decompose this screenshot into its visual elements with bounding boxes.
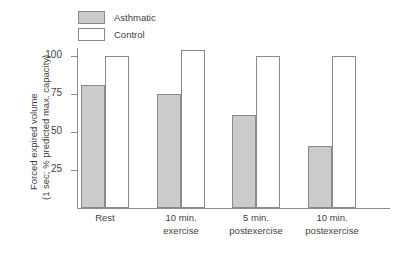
x-axis-label-3-line2: postexercise: [277, 225, 387, 238]
y-axis-title: Forced expired volume (1 sec; % predicte…: [0, 0, 46, 255]
chart-figure: Asthmatic Control Forced expired volume …: [0, 0, 409, 255]
bar-control-1: [181, 50, 205, 208]
bar-asthmatic-2: [232, 115, 256, 208]
y-axis-title-line1: Forced expired volume: [28, 93, 39, 190]
x-axis-labels: Rest10 min.exercise5 min.postexercise10 …: [77, 212, 397, 254]
x-axis-label-3-line1: 10 min.: [316, 212, 347, 223]
y-tick-label-100: 100: [45, 49, 62, 60]
chart-legend: Asthmatic Control: [78, 11, 156, 41]
bar-asthmatic-0: [81, 85, 105, 208]
bar-asthmatic-3: [308, 146, 332, 208]
x-axis-label-2-line1: 5 min.: [243, 212, 269, 223]
y-tick-label-25: 25: [51, 163, 62, 174]
bar-control-2: [256, 56, 280, 208]
legend-swatch-asthmatic: [78, 11, 105, 24]
bar-control-3: [332, 56, 356, 208]
x-axis-label-1-line1: 10 min.: [165, 212, 196, 223]
legend-label-asthmatic: Asthmatic: [114, 11, 156, 24]
bar-asthmatic-1: [157, 94, 181, 208]
bar-groups: [77, 40, 397, 208]
plot-area: 255075100: [77, 40, 397, 208]
y-axis-title-line2: (1 sec; % predicted max. capacity): [40, 55, 51, 200]
bar-control-0: [105, 56, 129, 208]
legend-item-asthmatic: Asthmatic: [78, 11, 156, 24]
x-axis-line: [77, 208, 390, 209]
x-axis-label-0-line1: Rest: [95, 212, 115, 223]
y-tick-label-50: 50: [51, 125, 62, 136]
y-tick-label-75: 75: [51, 87, 62, 98]
x-axis-label-3: 10 min.postexercise: [277, 212, 387, 237]
